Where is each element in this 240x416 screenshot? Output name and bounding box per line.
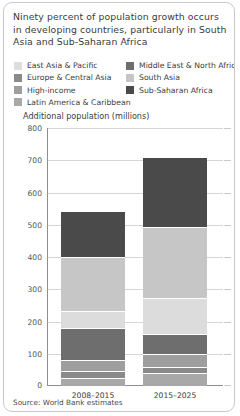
chart-panel: Ninety percent of population growth occu… bbox=[3, 2, 235, 412]
legend-item[interactable]: Sub-Saharan Africa bbox=[125, 84, 231, 95]
legend-item[interactable]: South Asia bbox=[125, 72, 231, 83]
legend-swatch-icon bbox=[13, 85, 23, 95]
stacked-bar[interactable]: 2015–2025 bbox=[143, 157, 207, 386]
y-axis-tick-label: 100 bbox=[28, 349, 43, 358]
legend-swatch-icon bbox=[13, 73, 23, 83]
legend-label: Middle East & North Africa bbox=[139, 61, 235, 70]
legend-label: South Asia bbox=[139, 73, 180, 82]
legend-label: Sub-Saharan Africa bbox=[139, 86, 213, 95]
legend-swatch-icon bbox=[13, 61, 23, 71]
axis-tick bbox=[224, 354, 231, 355]
bar-segment[interactable] bbox=[61, 328, 125, 360]
legend-column-right: Middle East & North AfricaSouth AsiaSub-… bbox=[125, 60, 231, 97]
bar-segment[interactable] bbox=[143, 157, 207, 227]
y-axis-tick-label: 500 bbox=[28, 220, 43, 229]
source-note: Source: World Bank estimates bbox=[13, 398, 123, 407]
plot-area: 0100200300400500600700800 2008–20152015–… bbox=[47, 128, 223, 386]
legend-column-left: East Asia & PacificEurope & Central Asia… bbox=[13, 60, 125, 109]
y-axis-tick-label: 700 bbox=[28, 156, 43, 165]
legend-label: East Asia & Pacific bbox=[27, 61, 97, 70]
bar-segment[interactable] bbox=[61, 371, 125, 378]
y-axis-tick-label: 400 bbox=[28, 253, 43, 262]
axis-tick bbox=[224, 193, 231, 194]
bar-segment[interactable] bbox=[61, 257, 125, 311]
y-axis-tick-label: 0 bbox=[37, 381, 42, 390]
stacked-bar[interactable]: 2008–2015 bbox=[61, 211, 125, 386]
bar-segment[interactable] bbox=[61, 378, 125, 386]
gridline: 800 bbox=[47, 128, 223, 129]
bar-segment[interactable] bbox=[61, 360, 125, 371]
chart-legend: East Asia & PacificEurope & Central Asia… bbox=[13, 60, 229, 108]
legend-item[interactable]: East Asia & Pacific bbox=[13, 60, 125, 71]
legend-swatch-icon bbox=[125, 61, 135, 71]
legend-label: Europe & Central Asia bbox=[27, 73, 111, 82]
x-axis-tick-label: 2015–2025 bbox=[154, 391, 196, 400]
bar-segment[interactable] bbox=[61, 211, 125, 257]
y-axis-tick-label: 600 bbox=[28, 188, 43, 197]
bar-segment[interactable] bbox=[143, 367, 207, 373]
legend-label: Latin America & Caribbean bbox=[27, 98, 131, 107]
legend-swatch-icon bbox=[125, 73, 135, 83]
legend-item[interactable]: Middle East & North Africa bbox=[125, 60, 231, 71]
bar-segment[interactable] bbox=[143, 227, 207, 298]
y-axis-label: Additional population (millions) bbox=[23, 111, 149, 121]
axis-tick bbox=[224, 128, 231, 129]
y-axis-line bbox=[47, 128, 48, 386]
legend-swatch-icon bbox=[125, 85, 135, 95]
axis-tick bbox=[224, 225, 231, 226]
bar-segment[interactable] bbox=[143, 298, 207, 334]
axis-tick bbox=[224, 385, 231, 386]
bar-segment[interactable] bbox=[143, 373, 207, 386]
legend-swatch-icon bbox=[13, 97, 23, 107]
bar-segment[interactable] bbox=[143, 354, 207, 367]
chart-title: Ninety percent of population growth occu… bbox=[13, 11, 227, 49]
y-axis-tick-label: 300 bbox=[28, 285, 43, 294]
legend-item[interactable]: High-income bbox=[13, 84, 125, 95]
axis-tick bbox=[224, 289, 231, 290]
legend-label: High-income bbox=[27, 86, 76, 95]
axis-tick bbox=[224, 160, 231, 161]
y-axis-tick-label: 800 bbox=[28, 124, 43, 133]
bar-segment[interactable] bbox=[61, 311, 125, 328]
y-axis-tick-label: 200 bbox=[28, 317, 43, 326]
legend-item[interactable]: Latin America & Caribbean bbox=[13, 97, 125, 108]
bar-segment[interactable] bbox=[143, 334, 207, 353]
axis-tick bbox=[224, 257, 231, 258]
legend-item[interactable]: Europe & Central Asia bbox=[13, 72, 125, 83]
axis-tick bbox=[224, 322, 231, 323]
